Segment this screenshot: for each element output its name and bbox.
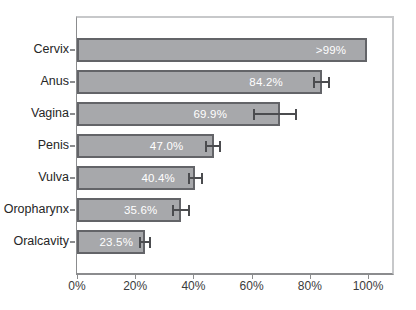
- bar-value-label: 23.5%: [99, 236, 133, 248]
- y-tick: [70, 241, 75, 243]
- category-label-vulva: Vulva: [0, 170, 69, 184]
- bar-chart: >99%84.2%69.9%47.0%40.4%35.6%23.5% Cervi…: [0, 0, 416, 310]
- category-label-vagina: Vagina: [0, 106, 69, 120]
- y-tick: [70, 209, 75, 211]
- bar-value-label: 69.9%: [193, 108, 227, 120]
- error-bar-cap-high: [295, 109, 297, 120]
- x-tick-label: 0%: [68, 279, 85, 293]
- error-bar-cap-high: [149, 237, 151, 248]
- category-label-penis: Penis: [0, 138, 69, 152]
- y-tick: [70, 49, 75, 51]
- category-label-oralcavity: Oralcavity: [0, 234, 69, 248]
- y-tick: [70, 113, 75, 115]
- error-bar-cap-low: [188, 173, 190, 184]
- error-bar-cap-low: [253, 109, 255, 120]
- category-label-anus: Anus: [0, 74, 69, 88]
- bar-value-label: 40.4%: [141, 172, 175, 184]
- y-tick: [70, 177, 75, 179]
- error-bar-cap-high: [188, 205, 190, 216]
- error-bar-line: [253, 113, 297, 115]
- bar-value-label: >99%: [316, 44, 347, 56]
- error-bar-cap-high: [328, 77, 330, 88]
- error-bar-cap-high: [201, 173, 203, 184]
- bar-penis: [77, 134, 214, 158]
- x-tick-label: 100%: [353, 279, 384, 293]
- x-tick-label: 80%: [298, 279, 322, 293]
- plot-area: >99%84.2%69.9%47.0%40.4%35.6%23.5%: [76, 16, 394, 275]
- bar-anus: [77, 70, 322, 94]
- x-tick-label: 60%: [240, 279, 264, 293]
- bar-vagina: [77, 102, 280, 126]
- category-label-oropharynx: Oropharynx: [0, 202, 69, 216]
- error-bar-cap-high: [219, 141, 221, 152]
- error-bar-cap-low: [313, 77, 315, 88]
- x-tick-label: 40%: [181, 279, 205, 293]
- error-bar-cap-low: [139, 237, 141, 248]
- bar-vulva: [77, 166, 195, 190]
- x-tick-label: 20%: [123, 279, 147, 293]
- category-label-cervix: Cervix: [0, 42, 69, 56]
- error-bar-cap-low: [172, 205, 174, 216]
- y-tick: [70, 145, 75, 147]
- bar-value-label: 35.6%: [124, 204, 158, 216]
- bar-value-label: 84.2%: [249, 76, 283, 88]
- error-bar-cap-low: [205, 141, 207, 152]
- y-tick: [70, 81, 75, 83]
- bar-value-label: 47.0%: [150, 140, 184, 152]
